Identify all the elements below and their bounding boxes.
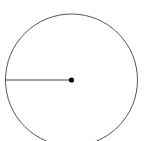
circle-diagram (0, 0, 144, 141)
center-point (69, 77, 74, 82)
